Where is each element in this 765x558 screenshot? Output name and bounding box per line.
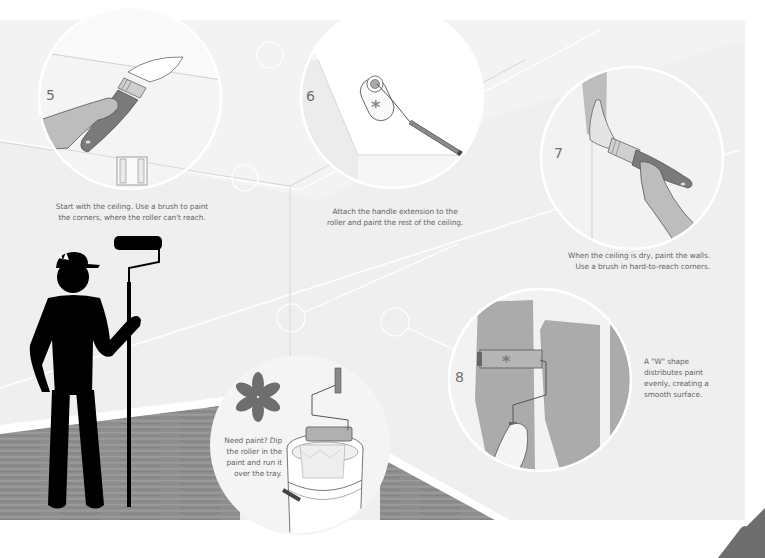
step-number-5: 5 xyxy=(46,87,55,103)
caption-line: When the ceiling is dry, paint the walls… xyxy=(560,250,710,261)
step-number-7: 7 xyxy=(554,145,563,161)
painting-instructions-diagram: * xyxy=(0,0,765,558)
step-5-circle xyxy=(38,6,222,190)
step-number-8: 8 xyxy=(455,369,464,385)
caption-line: A "W" shape xyxy=(644,356,724,367)
caption-line: Start with the ceiling. Use a brush to p… xyxy=(52,201,212,212)
step-number-6: 6 xyxy=(306,88,315,104)
caption-line: the roller in the xyxy=(212,446,282,457)
caption-line: Need paint? Dip xyxy=(212,435,282,446)
tip-caption: Need paint? Dip the roller in the paint … xyxy=(212,435,282,479)
step-6-caption: Attach the handle extension to the rolle… xyxy=(320,206,470,228)
caption-line: evenly, creating a xyxy=(644,378,724,389)
caption-line: Attach the handle extension to the xyxy=(320,206,470,217)
caption-line: smooth surface. xyxy=(644,389,724,400)
caption-line: distributes paint xyxy=(644,367,724,378)
step-6-circle: * xyxy=(300,5,484,190)
svg-text:*: * xyxy=(371,96,381,117)
caption-line: the corners, where the roller can't reac… xyxy=(52,212,212,223)
room-background: * xyxy=(0,0,765,558)
step-8-caption: A "W" shape distributes paint evenly, cr… xyxy=(644,356,724,400)
step-7-caption: When the ceiling is dry, paint the walls… xyxy=(560,250,710,272)
caption-line: roller and paint the rest of the ceiling… xyxy=(320,217,470,228)
caption-line: paint and run it xyxy=(212,457,282,468)
caption-line: over the tray. xyxy=(212,468,282,479)
caption-line: Use a brush in hard-to-reach corners. xyxy=(560,261,710,272)
svg-text:*: * xyxy=(502,352,511,371)
step-5-caption: Start with the ceiling. Use a brush to p… xyxy=(52,201,212,223)
